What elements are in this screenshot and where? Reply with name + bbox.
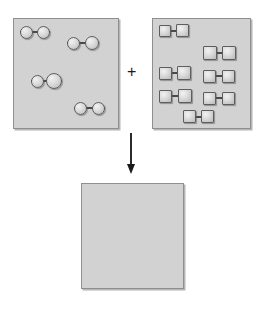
circle-pair-atom: [31, 75, 44, 88]
square-pair-atom: [183, 110, 196, 123]
circle-pair-molecule[interactable]: [74, 101, 105, 115]
square-pair-atom: [222, 46, 236, 60]
square-pair-atom: [222, 92, 235, 105]
square-pair-atom: [159, 67, 172, 80]
square-pair-atom: [201, 110, 214, 123]
square-pair-molecule[interactable]: [183, 110, 214, 123]
circle-pair-atom: [20, 26, 33, 39]
square-pair-atom: [177, 66, 191, 80]
square-pair-atom: [178, 89, 192, 103]
circle-pair-atom: [67, 37, 80, 50]
arrow-head-icon: [127, 164, 135, 174]
circle-pair-atom: [37, 26, 50, 39]
circle-pair-atom: [85, 36, 99, 50]
square-pair-molecule[interactable]: [203, 46, 236, 60]
circle-pair-molecule[interactable]: [67, 36, 99, 50]
square-pair-atom: [176, 24, 189, 37]
circle-pair-atom: [46, 73, 62, 89]
reaction-arrow: [123, 133, 139, 174]
square-pair-atom: [203, 92, 216, 105]
square-pair-molecule[interactable]: [159, 24, 189, 37]
plus-operator: +: [127, 64, 136, 80]
product-container-empty[interactable]: [81, 183, 184, 289]
square-pair-atom: [203, 46, 217, 60]
circle-pair-molecule[interactable]: [20, 25, 50, 39]
square-pair-atom: [159, 25, 171, 37]
square-pair-atom: [222, 70, 235, 83]
circle-pair-atom: [74, 102, 87, 115]
reaction-diagram: +: [0, 0, 262, 310]
square-pair-atom: [203, 70, 216, 83]
square-pair-molecule[interactable]: [203, 91, 235, 105]
square-pair-atom: [159, 90, 172, 103]
square-pair-molecule[interactable]: [159, 89, 192, 103]
square-pair-molecule[interactable]: [203, 69, 235, 83]
circle-pair-molecule[interactable]: [31, 73, 62, 89]
square-pair-molecule[interactable]: [159, 66, 191, 80]
arrow-shaft: [130, 133, 132, 165]
circle-pair-atom: [92, 102, 105, 115]
